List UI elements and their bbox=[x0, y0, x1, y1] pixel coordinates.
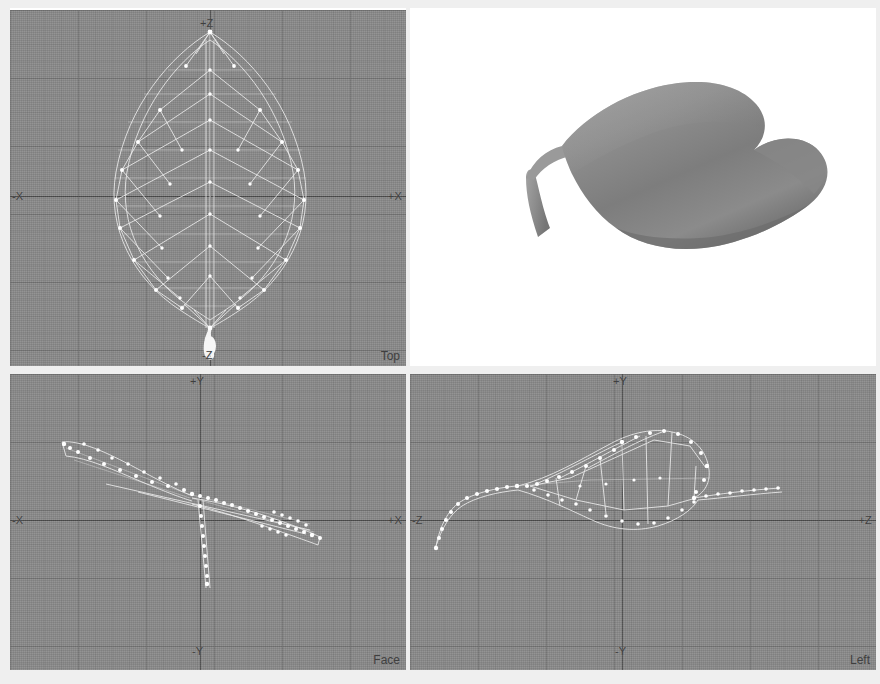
wireframe-leaf-face bbox=[10, 374, 406, 670]
viewport-label-face[interactable]: Face bbox=[373, 654, 400, 666]
axis-label-right: +X bbox=[388, 191, 402, 202]
shaded-leaf-model bbox=[410, 8, 876, 366]
axis-label-top: +Y bbox=[190, 376, 204, 387]
wireframe-leaf-top bbox=[10, 10, 406, 366]
axis-label-top: +Z bbox=[200, 18, 214, 29]
axis-label-top: +Y bbox=[613, 376, 627, 387]
splitter-vertical[interactable] bbox=[406, 8, 410, 670]
splitter-horizontal[interactable] bbox=[10, 366, 876, 374]
axis-label-left: -X bbox=[12, 191, 23, 202]
wireframe-leaf-left bbox=[410, 374, 876, 670]
axis-label-left: -Z bbox=[412, 515, 423, 526]
viewport-top[interactable]: +Z -Z -X +X Top bbox=[10, 10, 406, 366]
axis-label-bottom: -Y bbox=[615, 646, 626, 657]
axis-label-bottom: -Y bbox=[192, 646, 203, 657]
viewport-face[interactable]: +Y -Y -X +X Face bbox=[10, 374, 406, 670]
viewport-label-left[interactable]: Left bbox=[850, 654, 870, 666]
viewport-left[interactable]: +Y -Y -Z +Z Left bbox=[410, 374, 876, 670]
viewport-label-top[interactable]: Top bbox=[381, 350, 400, 362]
axis-label-right: +Z bbox=[858, 515, 872, 526]
border-right bbox=[876, 0, 880, 684]
axis-label-bottom: -Z bbox=[202, 350, 213, 361]
axis-label-left: -X bbox=[12, 515, 23, 526]
mesh-vertices bbox=[434, 429, 780, 550]
border-top bbox=[0, 0, 880, 8]
border-left bbox=[0, 0, 10, 684]
viewport-perspective[interactable] bbox=[410, 8, 876, 366]
leaf-stem bbox=[526, 170, 550, 237]
mesh-vertices bbox=[62, 442, 322, 586]
application-window: +Z -Z -X +X Top bbox=[0, 0, 880, 684]
border-bottom bbox=[0, 670, 880, 684]
axis-label-right: +X bbox=[388, 515, 402, 526]
